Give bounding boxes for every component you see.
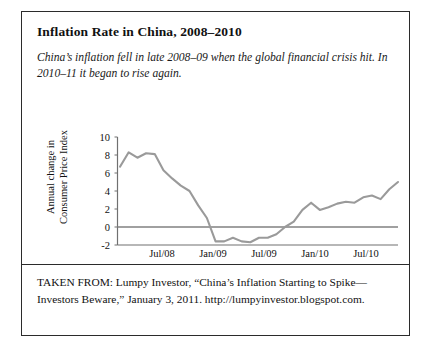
x-tick-label: Jul/08 xyxy=(149,248,175,257)
x-tick-label: Jan/09 xyxy=(199,248,226,257)
y-tick-label: 8 xyxy=(105,150,110,161)
figure-card: Inflation Rate in China, 2008–2010 China… xyxy=(21,11,410,336)
x-tick-label: Jul/09 xyxy=(251,248,277,257)
divider-rule xyxy=(22,264,409,265)
y-tick-label: 2 xyxy=(105,204,110,215)
line-chart: 10 8 6 4 2 0 -2 Jul/08 Jan/ xyxy=(28,107,404,257)
page-title: Inflation Rate in China, 2008–2010 xyxy=(37,24,397,40)
source-note: TAKEN FROM: Lumpy Investor, “China’s Inf… xyxy=(37,274,397,308)
y-tick-label: -2 xyxy=(101,240,110,251)
chart-region: Annual change in Consumer Price Index 10… xyxy=(28,107,404,257)
x-tick-label: Jan/10 xyxy=(301,248,328,257)
x-tick-label: Jul/10 xyxy=(353,248,379,257)
y-tick-label: 10 xyxy=(100,132,111,143)
y-tick-label: 4 xyxy=(105,186,111,197)
series-line-cpi xyxy=(120,152,398,242)
y-tick-label: 0 xyxy=(105,222,110,233)
figure-caption: China’s inflation fell in late 2008–09 w… xyxy=(37,50,395,82)
y-tick-label: 6 xyxy=(105,168,110,179)
